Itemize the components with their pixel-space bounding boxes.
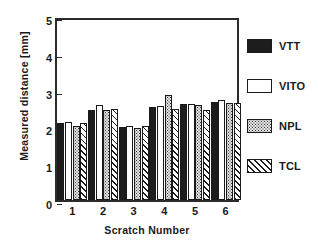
bar-tcl-scratch-3 (142, 126, 149, 200)
legend-item-npl: NPL (247, 110, 315, 142)
bar-group: 3 (118, 20, 149, 200)
y-axis-tick-label: 0 (46, 200, 52, 211)
legend-swatch-vito (247, 79, 272, 93)
legend-item-vito: VITO (247, 70, 315, 102)
legend-label-npl: NPL (279, 120, 302, 132)
y-axis-tick-label: 2 (46, 126, 52, 137)
legend-swatch-npl (247, 119, 272, 133)
bar-tcl-scratch-1 (80, 123, 87, 200)
bar-vito-scratch-2 (96, 105, 103, 200)
bar-npl-scratch-6 (226, 103, 233, 200)
bar-group: 1 (57, 20, 88, 200)
legend-swatch-tcl (247, 159, 272, 173)
bar-vtt-scratch-6 (211, 102, 218, 200)
bar-vtt-scratch-3 (119, 127, 126, 200)
bar-tcl-scratch-4 (172, 109, 179, 200)
bar-vito-scratch-4 (157, 106, 164, 200)
y-axis-tick-label: 4 (46, 52, 52, 63)
bar-vito-scratch-3 (126, 126, 133, 200)
bar-group: 5 (180, 20, 211, 200)
plot-area: 012345123456 (55, 18, 239, 202)
bar-tcl-scratch-5 (203, 110, 210, 200)
y-axis-tick: 0 (57, 204, 62, 205)
y-axis-title: Measured distance [mm] (18, 0, 34, 196)
legend-label-tcl: TCL (279, 160, 301, 172)
y-axis-tick-label: 5 (46, 16, 52, 27)
bar-vtt-scratch-4 (149, 107, 156, 200)
x-axis-tick-label: 5 (192, 206, 198, 217)
x-axis-title: Scratch Number (55, 224, 239, 236)
bar-tcl-scratch-6 (234, 103, 241, 200)
bar-vito-scratch-5 (188, 104, 195, 200)
x-axis-tick-label: 4 (161, 206, 167, 217)
bar-npl-scratch-5 (195, 105, 202, 200)
bar-vito-scratch-6 (218, 100, 225, 200)
legend-item-vtt: VTT (247, 30, 315, 62)
bar-vito-scratch-1 (65, 122, 72, 200)
bar-group: 6 (210, 20, 241, 200)
bar-vtt-scratch-2 (88, 110, 95, 200)
y-axis-tick-label: 3 (46, 89, 52, 100)
x-axis-tick-label: 2 (100, 206, 106, 217)
y-axis-tick-label: 1 (46, 163, 52, 174)
bar-group: 4 (149, 20, 180, 200)
legend: VTTVITONPLTCL (247, 30, 315, 190)
x-axis-tick-label: 1 (69, 206, 75, 217)
bar-npl-scratch-1 (73, 126, 80, 200)
x-axis-tick-label: 3 (131, 206, 137, 217)
legend-item-tcl: TCL (247, 150, 315, 182)
bar-vtt-scratch-1 (57, 123, 64, 200)
bar-group: 2 (88, 20, 119, 200)
bar-vtt-scratch-5 (180, 104, 187, 200)
bar-npl-scratch-2 (103, 110, 110, 200)
legend-label-vtt: VTT (279, 40, 300, 52)
legend-swatch-vtt (247, 39, 272, 53)
legend-label-vito: VITO (279, 80, 305, 92)
bar-chart-figure: Measured distance [mm] 012345123456 Scra… (0, 0, 318, 247)
x-axis-tick-label: 6 (223, 206, 229, 217)
bar-tcl-scratch-2 (111, 109, 118, 200)
bar-npl-scratch-3 (134, 128, 141, 200)
bar-npl-scratch-4 (165, 95, 172, 200)
